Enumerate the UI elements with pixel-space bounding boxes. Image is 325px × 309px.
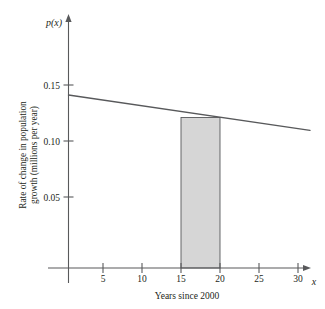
x-tick-label-15: 15 [176,274,186,284]
x-tick-label-20: 20 [215,274,225,284]
x-axis-symbol-label: x [311,276,317,287]
population-growth-rate-chart: 0.15 0.10 0.05 5 10 15 20 25 30 p(x) x Y… [0,0,325,309]
x-axis-caption: Years since 2000 [155,291,220,301]
x-tick-label-25: 25 [254,274,264,284]
y-tick-label-0.05: 0.05 [43,193,60,203]
y-axis-caption-line-1: Rate of change in population [18,101,28,209]
shaded-rectangle [181,118,220,269]
x-axis-arrow-icon [303,265,311,271]
y-axis-caption-line-2: growth (millions per year) [29,106,40,204]
y-axis-arrow-icon [65,14,71,22]
x-tick-label-5: 5 [101,274,106,284]
x-tick-label-10: 10 [137,274,147,284]
y-axis-symbol-label: p(x) [45,17,63,29]
x-tick-label-30: 30 [293,274,303,284]
chart-figure: 0.15 0.10 0.05 5 10 15 20 25 30 p(x) x Y… [0,0,325,309]
y-tick-label-0.15: 0.15 [43,81,60,91]
y-tick-label-0.10: 0.10 [43,137,60,147]
